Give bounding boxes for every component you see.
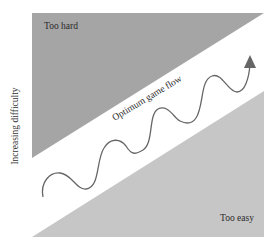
too-hard-label: Too hard: [44, 21, 78, 31]
too-easy-label: Too easy: [220, 213, 254, 223]
flow-diagram: Increasing difficulty Too hard Too easy …: [0, 0, 273, 248]
y-axis-label: Increasing difficulty: [10, 87, 20, 164]
arrowhead-icon: [244, 55, 256, 68]
diagram-graphic: [0, 0, 273, 248]
